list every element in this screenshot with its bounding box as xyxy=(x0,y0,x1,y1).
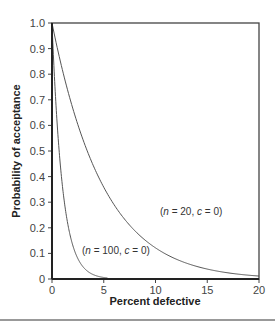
svg-text:0.6: 0.6 xyxy=(30,119,45,131)
y-axis-ticks: 00.10.20.30.40.50.60.70.80.91.0 xyxy=(30,17,52,285)
svg-text:1.0: 1.0 xyxy=(30,17,45,29)
svg-text:0.2: 0.2 xyxy=(30,222,45,234)
svg-text:0.7: 0.7 xyxy=(30,94,45,106)
svg-text:5: 5 xyxy=(101,284,107,296)
annotation-n20: (n = 20, c = 0) xyxy=(160,206,222,217)
oc-curve-chart: 00.10.20.30.40.50.60.70.80.91.0 05101520… xyxy=(0,0,275,327)
x-axis-ticks: 05101520 xyxy=(49,279,265,296)
y-axis-label: Probability of acceptance xyxy=(10,84,22,217)
curve-n20-c0 xyxy=(52,23,259,276)
x-axis-label: Percent defective xyxy=(109,295,200,307)
annotation-n100: (n = 100, c = 0) xyxy=(82,245,150,256)
svg-text:20: 20 xyxy=(253,284,265,296)
svg-text:0: 0 xyxy=(49,284,55,296)
svg-text:0.9: 0.9 xyxy=(30,43,45,55)
svg-text:0: 0 xyxy=(39,273,45,285)
svg-text:0.5: 0.5 xyxy=(30,145,45,157)
svg-text:0.3: 0.3 xyxy=(30,196,45,208)
plot-frame xyxy=(52,23,259,279)
svg-text:0.8: 0.8 xyxy=(30,68,45,80)
svg-text:15: 15 xyxy=(201,284,213,296)
svg-text:0.4: 0.4 xyxy=(30,171,45,183)
svg-text:0.1: 0.1 xyxy=(30,247,45,259)
